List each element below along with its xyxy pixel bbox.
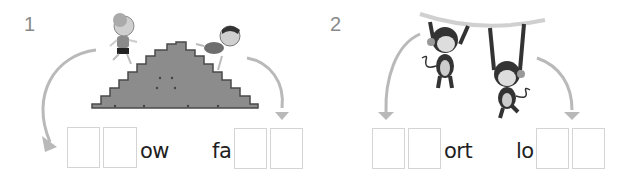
letter-blank-box[interactable] <box>408 128 441 169</box>
letter-blank-box[interactable] <box>536 128 569 169</box>
word-suffix: ort <box>444 139 472 163</box>
letter-blank-box[interactable] <box>372 128 405 169</box>
word-prefix: lo <box>516 139 534 163</box>
letter-blank-box[interactable] <box>572 128 605 169</box>
